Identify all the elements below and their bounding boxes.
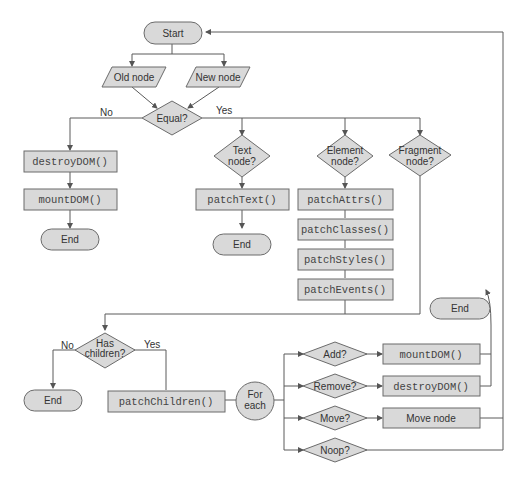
end-label-4: End	[451, 303, 469, 314]
has-children-yes-label: Yes	[144, 339, 160, 350]
text-node-label-2: node?	[228, 156, 256, 167]
destroy-dom-label: destroyDOM()	[32, 156, 108, 168]
mount-dom-label-2: mountDOM()	[399, 349, 462, 361]
equal-decision: Equal?	[142, 101, 202, 135]
mount-dom-box-2: mountDOM()	[383, 344, 480, 364]
new-node-input: New node	[186, 67, 250, 87]
destroy-dom-box-2: destroyDOM()	[383, 376, 480, 396]
move-label: Move?	[320, 413, 350, 424]
patch-styles-box: patchStyles()	[298, 249, 393, 270]
start-label: Start	[162, 28, 183, 39]
has-children-decision: Has children?	[75, 333, 135, 368]
old-node-label: Old node	[114, 72, 155, 83]
patch-attrs-label: patchAttrs()	[307, 194, 383, 206]
mount-dom-box: mountDOM()	[24, 189, 117, 210]
patch-styles-label: patchStyles()	[304, 254, 386, 266]
add-label: Add?	[323, 349, 347, 360]
fragment-node-label-1: Fragment	[399, 145, 442, 156]
old-node-input: Old node	[102, 67, 166, 87]
noop-decision: Noop?	[303, 438, 367, 462]
fragment-node-label-2: node?	[406, 156, 434, 167]
equal-no-label: No	[100, 107, 113, 118]
move-node-label: Move node	[406, 413, 456, 424]
for-each-label-1: For	[248, 389, 264, 400]
patch-events-label: patchEvents()	[304, 284, 386, 296]
end-terminal-1: End	[41, 229, 99, 250]
add-decision: Add?	[303, 342, 367, 366]
element-node-label-2: node?	[331, 156, 359, 167]
move-decision: Move?	[303, 406, 367, 430]
destroy-dom-box: destroyDOM()	[24, 151, 117, 172]
patch-attrs-box: patchAttrs()	[298, 189, 393, 210]
text-node-label-1: Text	[233, 145, 252, 156]
remove-label: Remove?	[314, 381, 357, 392]
destroy-dom-label-2: destroyDOM()	[393, 381, 469, 393]
element-node-label-1: Element	[327, 145, 364, 156]
move-node-box: Move node	[383, 408, 480, 428]
has-children-label-2: children?	[85, 348, 126, 359]
start-terminal: Start	[144, 22, 202, 44]
noop-label: Noop?	[320, 445, 350, 456]
end-label-2: End	[233, 239, 251, 250]
patch-events-box: patchEvents()	[298, 279, 393, 300]
end-terminal-2: End	[213, 234, 271, 255]
patch-children-box: patchChildren()	[108, 391, 225, 412]
flowchart: Start Old node New node Equal? No Yes de…	[0, 0, 519, 482]
for-each-label-2: each	[244, 400, 266, 411]
fragment-node-decision: Fragment node?	[389, 135, 451, 176]
patch-text-box: patchText()	[196, 189, 289, 210]
end-label-3: End	[44, 395, 62, 406]
end-label-1: End	[61, 234, 79, 245]
text-node-decision: Text node?	[214, 135, 270, 177]
end-terminal-4: End	[430, 298, 490, 319]
has-children-no-label: No	[61, 340, 74, 351]
remove-decision: Remove?	[303, 374, 367, 398]
equal-label: Equal?	[156, 113, 188, 124]
patch-children-label: patchChildren()	[119, 396, 214, 408]
equal-yes-label: Yes	[216, 105, 232, 116]
mount-dom-label: mountDOM()	[38, 194, 101, 206]
new-node-label: New node	[195, 72, 240, 83]
patch-classes-label: patchClasses()	[301, 224, 389, 236]
end-terminal-3: End	[24, 390, 82, 411]
patch-text-label: patchText()	[207, 194, 276, 206]
patch-classes-box: patchClasses()	[298, 219, 393, 240]
for-each-loop: For each	[236, 382, 274, 420]
element-node-decision: Element node?	[317, 135, 373, 177]
